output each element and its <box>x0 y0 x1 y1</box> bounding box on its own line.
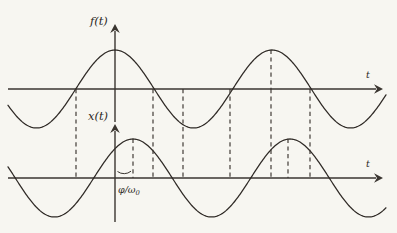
top-signal-label: f(t) <box>89 14 108 28</box>
bottom-time-axis-label: t <box>366 158 370 169</box>
waveform-diagram: f(t) t x(t) t <box>0 0 397 233</box>
top-panel: f(t) t <box>8 14 386 128</box>
sampling-marker-group <box>76 50 310 178</box>
phase-delay-arc <box>118 171 132 173</box>
phase-delay-label-main: φ/ω <box>118 184 136 195</box>
bottom-panel: x(t) t <box>8 109 386 222</box>
phase-delay-label: φ/ω0 <box>118 184 141 197</box>
phase-delay-label-subscript: 0 <box>136 189 141 197</box>
bottom-signal-label: x(t) <box>88 109 108 123</box>
phase-delay-annotation: φ/ω0 <box>118 171 141 197</box>
waveform-figure: f(t) t x(t) t <box>0 0 397 233</box>
top-time-axis-label: t <box>366 69 370 80</box>
